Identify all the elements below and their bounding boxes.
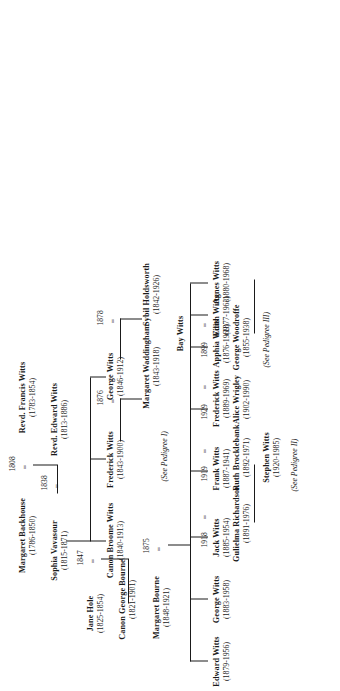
marriage-sign-1899: = <box>200 322 210 327</box>
person-george-witts-1846: George Witts (1846-1912) <box>106 333 125 419</box>
child-drop-edith <box>190 314 208 315</box>
marriage-sign-1918: = <box>200 514 210 519</box>
person-dates: (1786-1850) <box>28 481 37 589</box>
marriage-sign-1847: = <box>88 558 98 563</box>
person-name: George Witts <box>106 333 116 419</box>
person-canon-broome-witts: Canon Broome Witts (1840-1913) <box>106 491 125 589</box>
marriage-year-1918: 1918 <box>200 532 209 547</box>
pedigree-reference-iii: (See Pedigree III) <box>262 311 271 367</box>
marriage-sign-1929: = <box>200 384 210 389</box>
marriage-sign-1919: = <box>200 448 210 453</box>
marriage-sign-1878: = <box>108 318 118 323</box>
person-name: Sybil Holdsworth <box>142 233 152 355</box>
person-name: George Witts <box>212 561 222 637</box>
person-bay-witts: Bay Witts <box>176 301 186 365</box>
descent-line-1918 <box>254 464 255 522</box>
person-sophia-vavasour: Sophia Vavasour (1815-1871) <box>50 498 69 602</box>
descent-line-1878 <box>120 318 142 319</box>
person-name: Revd. Edward Witts <box>50 367 60 471</box>
person-dates: (1842-1926) <box>152 233 161 355</box>
person-dates: (1825-1854) <box>96 571 105 655</box>
marriage-year-1878: 1878 <box>96 310 105 325</box>
person-name: Margaret Backhouse <box>18 481 28 589</box>
marriage-year-1929: 1929 <box>200 404 209 419</box>
person-dates: (1813-1886) <box>60 367 69 471</box>
person-jack-witts: Jack Witts (1885-1954) <box>212 503 231 571</box>
person-dates: (1840-1913) <box>116 491 125 589</box>
person-name: Canon Broome Witts <box>106 491 116 589</box>
person-dates: (1821-1901) <box>128 519 137 679</box>
marriage-sign-1875: = <box>154 546 164 551</box>
marriage-year-1875: 1875 <box>142 538 151 553</box>
person-dates: (1885-1954) <box>222 503 231 571</box>
marriage-year-1899: 1899 <box>200 342 209 357</box>
marriage-year-1919: 1919 <box>200 466 209 481</box>
person-frank-witts: Frank Witts (1887-1941) <box>212 433 231 503</box>
person-name: Frederick Witts <box>106 413 116 505</box>
person-name: Margaret Bourne <box>152 559 162 655</box>
person-stephen-witts: Stephen Witts (1920-1985) <box>262 417 281 497</box>
person-name: Sophia Vavasour <box>50 498 60 602</box>
child-drop-edward-1879 <box>190 660 208 661</box>
marriage-year-1838: 1838 <box>40 475 49 490</box>
descent-line-1899 <box>254 279 255 333</box>
person-sybil-holdsworth: Sybil Holdsworth (1842-1926) <box>142 233 161 355</box>
person-agnes-witts: Agnes Witts (1880-1968) <box>212 245 231 319</box>
pedigree-reference-ii: (See Pedigree II) <box>290 438 299 491</box>
marriage-year-1847: 1847 <box>76 550 85 565</box>
child-drop-agnes <box>190 282 208 283</box>
person-dates: (1880-1968) <box>222 245 231 319</box>
children-bus-gen4 <box>190 283 191 661</box>
person-dates: (1815-1871) <box>60 498 69 602</box>
person-dates: (1887-1941) <box>222 433 231 503</box>
marriage-sign-1838: = <box>52 483 62 488</box>
person-name: George Woodroffe <box>232 289 242 385</box>
person-dates: (1920-1985) <box>272 417 281 497</box>
person-dates: (1855-1938) <box>242 289 251 385</box>
pedigree-reference-i: (See Pedigree I) <box>160 431 169 481</box>
person-frederick-witts-1843: Frederick Witts (1843-1900) <box>106 413 125 505</box>
descent-line-1878-h <box>120 318 121 359</box>
person-revd-edward-witts: Revd. Edward Witts (1813-1886) <box>50 367 69 471</box>
person-name: Jack Witts <box>212 503 222 571</box>
marriage-year-1876: 1876 <box>96 390 105 405</box>
person-margaret-bourne: Margaret Bourne (1848-1921) <box>152 559 171 655</box>
person-jane-hole: Jane Hole (1825-1854) <box>86 571 105 655</box>
marriage-year-1808: 1808 <box>8 456 17 471</box>
child-drop-broome <box>90 540 106 541</box>
person-dates: (1883-1958) <box>222 561 231 637</box>
person-revd-francis-witts: Revd. Francis Witts (1783-1854) <box>18 343 37 451</box>
person-name: Jane Hole <box>86 571 96 655</box>
child-drop-frederick-1843 <box>90 458 106 459</box>
children-stem-gen4 <box>168 544 190 545</box>
person-dates: (1783-1854) <box>28 343 37 451</box>
children-stem-gen2 <box>66 540 90 541</box>
person-dates: (1848-1921) <box>162 559 171 655</box>
person-george-woodroffe: George Woodroffe (1855-1938) <box>232 289 251 385</box>
person-name: Agnes Witts <box>212 245 222 319</box>
marriage-sign-1808: = <box>20 464 30 469</box>
person-name: Frank Witts <box>212 433 222 503</box>
descent-line-bourne-h <box>128 558 129 603</box>
child-drop-george-1846 <box>90 376 106 377</box>
person-name: Bay Witts <box>176 301 186 365</box>
person-name: Stephen Witts <box>262 417 272 497</box>
child-drop-george-1883 <box>190 598 208 599</box>
person-name: Revd. Francis Witts <box>18 343 28 451</box>
person-margaret-backhouse: Margaret Backhouse (1786-1850) <box>18 481 37 589</box>
person-george-witts-1883: George Witts (1883-1958) <box>212 561 231 637</box>
